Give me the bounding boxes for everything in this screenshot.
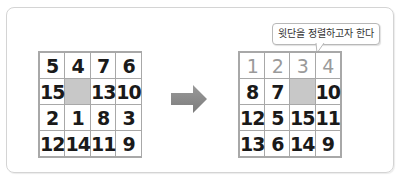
puzzle-cell: 10 <box>116 79 140 104</box>
puzzle-cell: 5 <box>40 53 64 78</box>
puzzle-cell: 3 <box>116 105 140 130</box>
sorted-cell: 4 <box>316 53 340 78</box>
puzzle-grid-before: 5 4 7 6 15 13 10 2 1 8 3 12 14 11 9 <box>38 51 142 158</box>
puzzle-cell: 14 <box>290 131 314 156</box>
puzzle-cell: 9 <box>116 131 140 156</box>
puzzle-cell: 9 <box>316 131 340 156</box>
puzzle-cell: 8 <box>91 105 115 130</box>
puzzle-cell: 12 <box>240 105 264 130</box>
sorted-cell: 2 <box>265 53 289 78</box>
puzzle-cell: 7 <box>91 53 115 78</box>
puzzle-cell: 13 <box>91 79 115 104</box>
puzzle-cell: 6 <box>116 53 140 78</box>
empty-cell <box>290 79 314 104</box>
puzzle-cell: 4 <box>65 53 89 78</box>
empty-cell <box>65 79 89 104</box>
puzzle-cell: 1 <box>65 105 89 130</box>
sorted-cell: 1 <box>240 53 264 78</box>
puzzle-cell: 15 <box>290 105 314 130</box>
puzzle-cell: 2 <box>40 105 64 130</box>
puzzle-cell: 13 <box>240 131 264 156</box>
puzzle-cell: 11 <box>316 105 340 130</box>
puzzle-cell: 10 <box>316 79 340 104</box>
callout-label: 윗단을 정렬하고자 한다 <box>272 23 380 45</box>
right-arrow-icon <box>171 85 207 113</box>
puzzle-cell: 14 <box>65 131 89 156</box>
puzzle-cell: 7 <box>265 79 289 104</box>
puzzle-grid-after: 1 2 3 4 8 7 10 12 5 15 11 13 6 14 9 <box>238 51 342 158</box>
puzzle-cell: 15 <box>40 79 64 104</box>
sorted-cell: 3 <box>290 53 314 78</box>
puzzle-cell: 11 <box>91 131 115 156</box>
puzzle-cell: 12 <box>40 131 64 156</box>
puzzle-cell: 5 <box>265 105 289 130</box>
puzzle-cell: 6 <box>265 131 289 156</box>
puzzle-cell: 8 <box>240 79 264 104</box>
